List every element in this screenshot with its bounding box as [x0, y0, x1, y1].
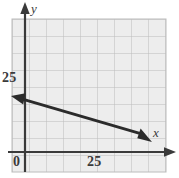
graph-canvas — [0, 0, 179, 178]
y-axis-label: y — [31, 2, 37, 15]
coordinate-grid-figure: 25 0 25 y x — [0, 0, 179, 178]
x-axis-label: x — [153, 126, 159, 139]
x-axis-tick-label-25: 25 — [87, 155, 101, 169]
y-axis-tick-label-25: 25 — [2, 71, 16, 85]
origin-tick-label-0: 0 — [13, 155, 20, 169]
grid-background — [12, 19, 166, 172]
